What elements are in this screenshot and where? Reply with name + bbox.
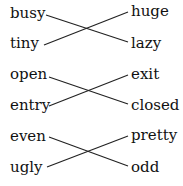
word-exit: exit <box>131 65 159 83</box>
word-even: even <box>10 127 46 145</box>
word-entry: entry <box>10 96 50 114</box>
word-busy: busy <box>10 4 45 22</box>
word-odd: odd <box>131 158 159 176</box>
line-tiny-huge <box>44 12 128 45</box>
word-closed: closed <box>131 96 179 114</box>
word-tiny: tiny <box>10 34 39 52</box>
word-open: open <box>10 65 47 83</box>
line-entry-exit <box>49 75 128 106</box>
word-pretty: pretty <box>131 126 177 144</box>
word-lazy: lazy <box>131 34 161 52</box>
word-ugly: ugly <box>10 158 43 176</box>
word-huge: huge <box>131 2 169 20</box>
